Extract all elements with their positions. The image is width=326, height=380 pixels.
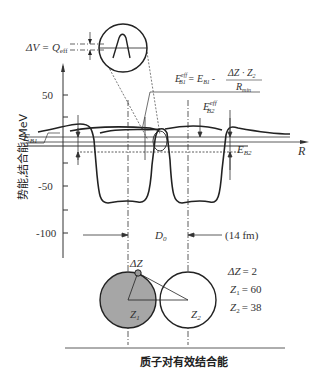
svg-text:ΔZ= 2: ΔZ= 2: [227, 265, 257, 277]
y-axis-label: 势能,结合能/MeV: [16, 114, 30, 200]
y-tick-minus-50: -50: [38, 180, 53, 192]
distance-label: (14 fm): [225, 229, 259, 242]
zoom-inset: [70, 24, 160, 140]
potential-curves: [38, 124, 290, 203]
caption: 质子对有效结合能: [140, 355, 228, 369]
d0-dimension: [83, 233, 222, 237]
binding-energy-diagram: 50 -50 -100 势能,结合能/MeV R: [0, 0, 326, 380]
svg-text:Z1= 60: Z1= 60: [230, 283, 262, 297]
delta-z-particle: [135, 270, 141, 276]
eb2-eff-label: EeffB2: [202, 99, 218, 115]
delta-v-label: ΔV = Qeff: [25, 41, 68, 55]
svg-text:ΔZ · Z2: ΔZ · Z2: [227, 67, 256, 79]
delta-z-label: ΔZ: [129, 257, 143, 269]
parameter-list: ΔZ= 2 Z1= 60 Z2= 38: [227, 265, 262, 315]
svg-text:Rmin: Rmin: [235, 81, 251, 93]
y-tick-minus-100: -100: [36, 227, 57, 239]
eb1-label: EB1: [22, 131, 60, 145]
x-axis-label: R: [297, 144, 306, 158]
y-axis: [61, 63, 68, 258]
formula: EeffB1= EB1- ΔZ · Z2 Rmin: [142, 67, 262, 130]
y-tick-50: 50: [42, 89, 54, 101]
d0-label: D0: [154, 229, 167, 243]
svg-text:Z2= 38: Z2= 38: [230, 301, 262, 315]
svg-text:EeffB1= EB1-: EeffB1= EB1-: [174, 72, 215, 85]
eb2-label: EB2: [236, 143, 252, 157]
